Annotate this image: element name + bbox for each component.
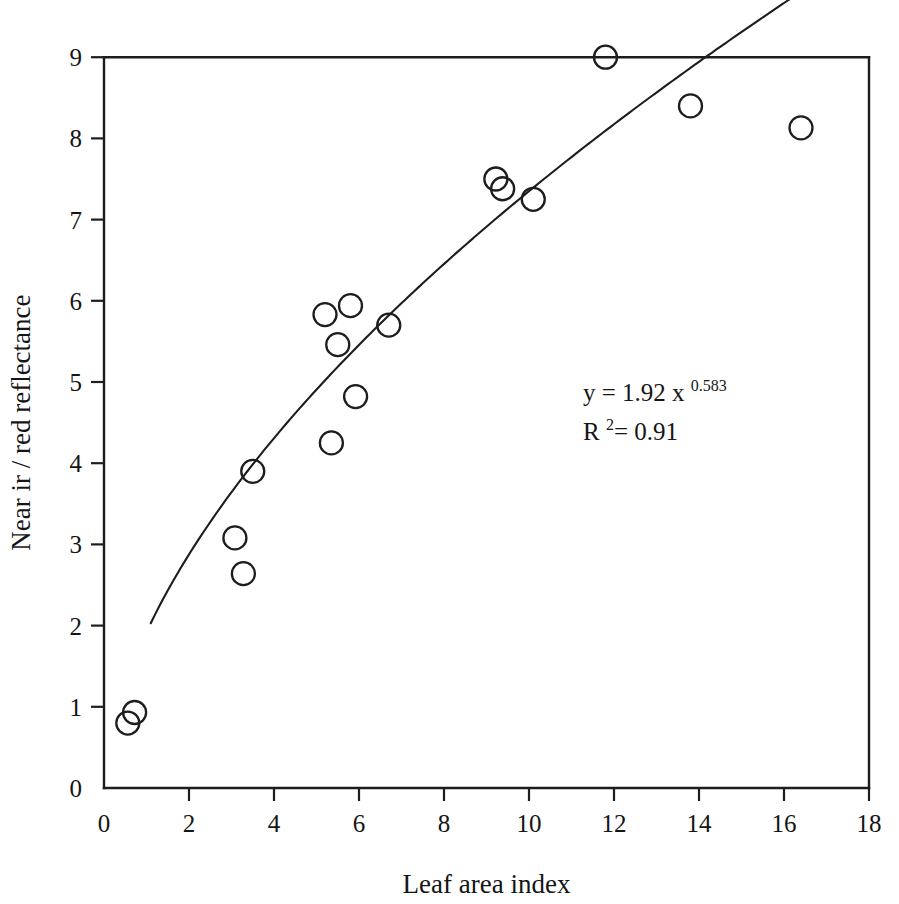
y-tick-label: 3 xyxy=(70,531,83,558)
scatter-plot-figure: 0246810121416180123456789Leaf area index… xyxy=(0,0,899,904)
x-tick-label: 6 xyxy=(353,810,366,837)
chart-canvas: 0246810121416180123456789Leaf area index… xyxy=(0,0,899,904)
x-tick-label: 2 xyxy=(183,810,196,837)
data-point xyxy=(326,333,349,356)
y-tick-label: 6 xyxy=(70,288,83,315)
r-exponent: 2 xyxy=(606,416,614,433)
x-tick-label: 18 xyxy=(857,810,882,837)
data-point xyxy=(314,303,337,326)
y-tick-label: 8 xyxy=(70,125,83,152)
data-point xyxy=(790,116,813,139)
y-tick-label: 1 xyxy=(70,694,83,721)
data-point xyxy=(320,431,343,454)
equation-annotation: y = 1.92 x 0.583 xyxy=(583,377,727,406)
y-tick-label: 4 xyxy=(70,450,83,477)
y-tick-label: 5 xyxy=(70,369,83,396)
x-tick-label: 14 xyxy=(687,810,713,837)
x-tick-label: 12 xyxy=(602,810,627,837)
x-axis-title: Leaf area index xyxy=(403,869,571,899)
fit-curve xyxy=(151,0,852,623)
x-tick-label: 4 xyxy=(268,810,281,837)
y-tick-label: 0 xyxy=(70,775,83,802)
data-point xyxy=(232,562,255,585)
equation-base: y = 1.92 x xyxy=(583,379,691,406)
data-point xyxy=(339,294,362,317)
data-point xyxy=(522,188,545,211)
x-tick-label: 8 xyxy=(438,810,451,837)
y-tick-label: 7 xyxy=(70,207,83,234)
y-axis-title: Near ir / red reflectance xyxy=(6,294,36,550)
r-squared-annotation: R 2= 0.91 xyxy=(583,416,678,445)
data-point xyxy=(377,314,400,337)
equation-exponent: 0.583 xyxy=(691,377,727,394)
y-tick-label: 2 xyxy=(70,613,83,640)
x-tick-label: 0 xyxy=(98,810,111,837)
data-point xyxy=(223,526,246,549)
x-tick-label: 16 xyxy=(772,810,797,837)
r-value: = 0.91 xyxy=(614,418,678,445)
data-point xyxy=(344,385,367,408)
y-tick-label: 9 xyxy=(70,44,83,71)
data-point xyxy=(679,94,702,117)
r-symbol: R xyxy=(583,418,606,445)
x-tick-label: 10 xyxy=(517,810,542,837)
